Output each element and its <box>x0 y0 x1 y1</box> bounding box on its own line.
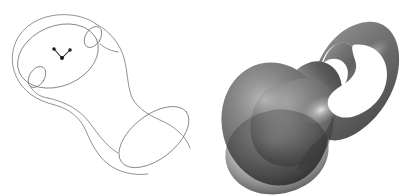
tangent-vector-vertex <box>61 57 64 60</box>
tangent-vector-right-tip <box>69 49 71 51</box>
wireframe-strokes <box>8 12 200 180</box>
upper-tube-connector <box>100 44 118 52</box>
wireframe-drawing <box>0 0 204 196</box>
wireframe-panel <box>0 0 204 196</box>
figure-container: Klein bottle surface — wireframe and sha… <box>0 0 407 196</box>
shaded-render-panel <box>203 0 407 196</box>
surface-body <box>209 22 400 196</box>
bell-mouth-ellipse <box>108 94 200 179</box>
shaded-surface-render <box>203 0 407 196</box>
tangent-vector-mark <box>53 48 71 60</box>
intersection-ellipse-lower <box>25 63 50 90</box>
tangent-vector-left-tip <box>53 48 55 50</box>
outer-silhouette-right <box>96 24 190 148</box>
outer-silhouette-contour <box>12 15 148 175</box>
